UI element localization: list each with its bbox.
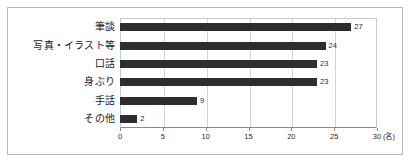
x-tick-mark (334, 128, 335, 131)
bar (120, 42, 326, 50)
category-label: 口話 (14, 59, 115, 69)
bar-value-label: 2 (140, 115, 144, 123)
x-tick-mark (120, 128, 121, 131)
bar-chart-figure: 筆談写真・イラスト等口話身ぶり手話その他 2724232392 05101520… (0, 0, 410, 165)
bar (120, 78, 317, 86)
x-tick-label: 10 (201, 133, 209, 141)
x-tick-label: 15 (244, 133, 252, 141)
x-tick-mark (377, 128, 378, 131)
x-tick-label: 20 (287, 133, 295, 141)
x-tick-mark (249, 128, 250, 131)
x-tick-label: 5 (161, 133, 165, 141)
bar (120, 115, 137, 123)
category-label: 筆談 (14, 22, 115, 32)
bar (120, 60, 317, 68)
x-tick-label: 25 (330, 133, 338, 141)
category-label: その他 (14, 114, 115, 124)
category-axis: 筆談写真・イラスト等口話身ぶり手話その他 (14, 18, 115, 128)
category-label: 手話 (14, 96, 115, 106)
bar-value-label: 23 (320, 60, 328, 68)
bar-value-label: 24 (329, 42, 337, 50)
x-tick-mark (163, 128, 164, 131)
x-axis-unit-label: (名) (383, 133, 395, 141)
bar (120, 97, 197, 105)
x-tick-mark (206, 128, 207, 131)
bar-value-label: 9 (200, 97, 204, 105)
x-tick-mark (291, 128, 292, 131)
category-label: 写真・イラスト等 (14, 41, 115, 51)
bar (120, 23, 351, 31)
bars-layer: 2724232392 (120, 18, 377, 128)
x-tick-label: 30 (373, 133, 381, 141)
x-tick-label: 0 (118, 133, 122, 141)
bar-value-label: 23 (320, 78, 328, 86)
x-axis: 051015202530 (120, 128, 377, 148)
category-label: 身ぶり (14, 77, 115, 87)
bar-value-label: 27 (354, 23, 362, 31)
